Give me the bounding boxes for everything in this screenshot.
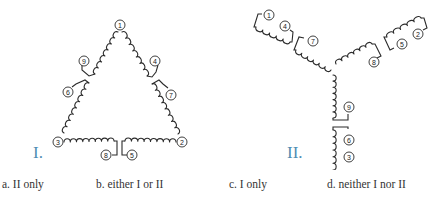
answer-letter: d. bbox=[327, 178, 336, 190]
svg-text:6: 6 bbox=[66, 89, 70, 96]
diagram-label-I: I. bbox=[33, 143, 43, 163]
terminal-9: 9 bbox=[344, 102, 354, 112]
terminal-8: 8 bbox=[101, 150, 111, 160]
svg-text:1: 1 bbox=[118, 22, 122, 29]
terminal-4: 4 bbox=[280, 21, 290, 31]
svg-text:2: 2 bbox=[416, 31, 420, 38]
answer-b[interactable]: b. either I or II bbox=[96, 178, 163, 190]
terminal-5: 5 bbox=[127, 150, 137, 160]
answer-a[interactable]: a. II only bbox=[2, 178, 44, 190]
winding-coil bbox=[125, 138, 176, 142]
svg-text:2: 2 bbox=[180, 139, 184, 146]
svg-text:7: 7 bbox=[169, 92, 173, 99]
diagram-label-II: II. bbox=[287, 143, 303, 163]
winding-coil bbox=[122, 32, 148, 76]
terminal-2: 2 bbox=[177, 137, 187, 147]
motor-winding-diagram: 123456789 147258963 bbox=[0, 0, 438, 170]
winding-coil bbox=[336, 42, 372, 64]
terminal-9: 9 bbox=[79, 56, 89, 66]
terminal-7: 7 bbox=[308, 36, 318, 46]
answer-letter: c. bbox=[229, 178, 237, 190]
wye-connection-diagram: 147258963 bbox=[254, 10, 427, 170]
terminal-3: 3 bbox=[53, 137, 63, 147]
lead-wire bbox=[333, 127, 348, 130]
terminal-1: 1 bbox=[115, 20, 125, 30]
winding-coil bbox=[333, 75, 336, 118]
svg-text:7: 7 bbox=[311, 38, 315, 45]
svg-text:8: 8 bbox=[104, 152, 108, 159]
winding-coil bbox=[333, 130, 336, 170]
svg-text:3: 3 bbox=[347, 154, 351, 161]
terminal-6: 6 bbox=[63, 87, 73, 97]
terminal-1: 1 bbox=[264, 10, 274, 20]
lead-wire bbox=[421, 18, 427, 30]
answer-letter: a. bbox=[2, 178, 10, 190]
lead-wire bbox=[112, 141, 117, 155]
answer-text: neither I nor II bbox=[339, 178, 406, 190]
winding-coil bbox=[93, 32, 118, 74]
terminal-8: 8 bbox=[369, 57, 379, 67]
delta-connection-diagram: 123456789 bbox=[53, 20, 187, 160]
svg-text:5: 5 bbox=[130, 152, 134, 159]
winding-coil bbox=[64, 138, 114, 142]
lead-wire bbox=[290, 30, 293, 42]
svg-text:9: 9 bbox=[347, 104, 351, 111]
answer-c[interactable]: c. I only bbox=[229, 178, 267, 190]
winding-coil bbox=[152, 84, 180, 134]
answer-text: II only bbox=[13, 178, 44, 190]
terminal-2: 2 bbox=[413, 29, 423, 39]
svg-text:1: 1 bbox=[267, 12, 271, 19]
answer-d[interactable]: d. neither I nor II bbox=[327, 178, 406, 190]
terminal-7: 7 bbox=[166, 90, 176, 100]
answer-choices: a. II only b. either I or II c. I only d… bbox=[0, 178, 438, 198]
lead-wire bbox=[384, 37, 394, 50]
answer-letter: b. bbox=[96, 178, 105, 190]
svg-text:4: 4 bbox=[283, 23, 287, 30]
terminal-4: 4 bbox=[150, 56, 160, 66]
answer-text: I only bbox=[240, 178, 267, 190]
svg-text:4: 4 bbox=[153, 58, 157, 65]
terminal-6: 6 bbox=[344, 135, 354, 145]
svg-text:9: 9 bbox=[82, 58, 86, 65]
svg-text:3: 3 bbox=[56, 139, 60, 146]
terminal-5: 5 bbox=[397, 39, 407, 49]
lead-wire bbox=[254, 14, 262, 27]
lead-wire bbox=[122, 141, 127, 155]
svg-text:5: 5 bbox=[400, 41, 404, 48]
answer-text: either I or II bbox=[108, 178, 164, 190]
winding-coil bbox=[296, 50, 331, 72]
terminal-3: 3 bbox=[344, 152, 354, 162]
lead-wire bbox=[294, 37, 304, 50]
svg-text:6: 6 bbox=[347, 137, 351, 144]
lead-wire bbox=[372, 44, 381, 58]
svg-text:8: 8 bbox=[372, 59, 376, 66]
